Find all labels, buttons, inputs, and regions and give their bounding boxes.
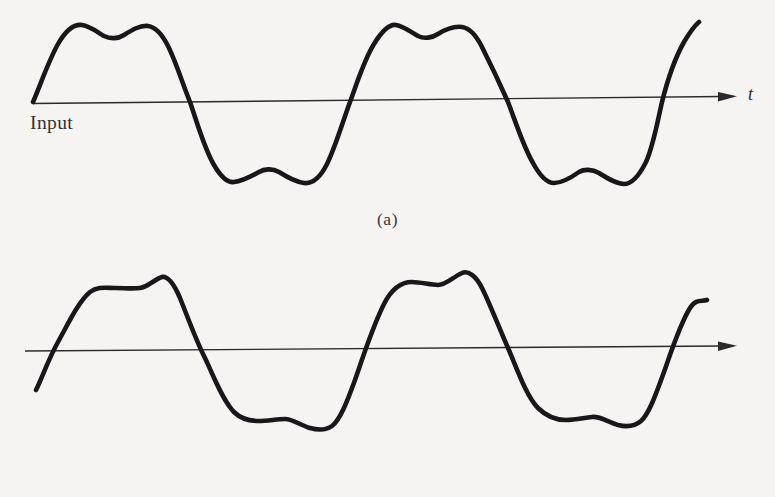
axis-line-a [33,97,722,104]
time-axis-label-a: t [748,84,753,105]
time-axis-a [33,92,737,104]
axis-arrowhead-b [718,342,737,352]
axis-line-b [25,346,722,351]
panel-input: Input t (a) [0,0,775,248]
panel-caption-a: (a) [0,209,775,230]
axis-arrowhead-a [718,92,737,102]
figure-page: Input t (a) Output t (b) [0,0,775,497]
output-waveform-curve [36,272,707,429]
input-series-label: Input [30,112,73,134]
time-axis-b [25,342,737,352]
panel-output: Output t (b) [0,248,775,497]
output-waveform-plot [0,248,775,497]
